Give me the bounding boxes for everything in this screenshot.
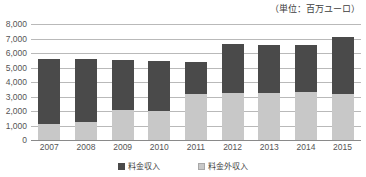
bar-segment (222, 93, 244, 140)
bar-group (222, 24, 244, 140)
bar-group (332, 24, 354, 140)
bar-group (258, 24, 280, 140)
bar-segment (112, 110, 134, 140)
bar-segment (75, 59, 97, 122)
bar-segment (148, 61, 170, 111)
bar-segment (258, 45, 280, 93)
x-axis-tick-label: 2013 (258, 142, 280, 152)
y-axis-tick-label: 8,000 (6, 20, 27, 29)
bar-segment (332, 94, 354, 140)
x-axis-tick-label: 2012 (222, 142, 244, 152)
bar-series-container (31, 24, 361, 140)
bar-segment (38, 124, 60, 140)
unit-annotation: （単位：百万ユーロ） (270, 4, 360, 15)
bar-segment (295, 92, 317, 140)
y-axis-tick-label: 4,000 (6, 78, 27, 87)
x-axis-tick-label: 2014 (295, 142, 317, 152)
square-swatch-icon (118, 163, 125, 170)
x-axis-tick-label: 2010 (148, 142, 170, 152)
y-axis-tick-label: 2,000 (6, 107, 27, 116)
x-axis-tick-label: 2008 (75, 142, 97, 152)
bar-segment (185, 94, 207, 140)
stacked-bar-chart: （単位：百万ユーロ） 01,0002,0003,0004,0005,0006,0… (0, 0, 366, 177)
legend-label: 料金収入 (128, 162, 160, 171)
legend-item: 料金外収入 (198, 162, 248, 171)
y-axis-tick-label: 7,000 (6, 35, 27, 44)
bar-group (38, 24, 60, 140)
square-swatch-icon (198, 163, 205, 170)
y-axis-tick-label: 0 (22, 136, 27, 145)
bar-group (148, 24, 170, 140)
legend-label: 料金外収入 (208, 162, 248, 171)
x-axis-tick-labels: 200720082009201020112012201320142015 (31, 142, 361, 156)
bar-segment (148, 111, 170, 140)
bar-segment (75, 122, 97, 140)
y-axis-tick-label: 5,000 (6, 64, 27, 73)
bar-segment (185, 62, 207, 94)
y-axis-tick-label: 3,000 (6, 93, 27, 102)
bar-segment (258, 93, 280, 140)
bar-group (185, 24, 207, 140)
y-axis-tick-label: 1,000 (6, 122, 27, 131)
bar-segment (222, 44, 244, 93)
bar-group (295, 24, 317, 140)
x-axis-tick-label: 2011 (185, 142, 207, 152)
legend-item: 料金収入 (118, 162, 160, 171)
x-axis-tick-label: 2009 (112, 142, 134, 152)
y-axis-tick-labels: 01,0002,0003,0004,0005,0006,0007,0008,00… (0, 24, 29, 140)
bar-segment (38, 59, 60, 124)
axis-baseline (31, 140, 361, 141)
x-axis-tick-label: 2015 (332, 142, 354, 152)
bar-segment (295, 45, 317, 92)
bar-group (75, 24, 97, 140)
plot-area (31, 24, 361, 140)
chart-legend: 料金収入料金外収入 (0, 160, 366, 173)
y-axis-tick-label: 6,000 (6, 49, 27, 58)
bar-segment (112, 60, 134, 110)
bar-segment (332, 37, 354, 94)
x-axis-tick-label: 2007 (38, 142, 60, 152)
bar-group (112, 24, 134, 140)
